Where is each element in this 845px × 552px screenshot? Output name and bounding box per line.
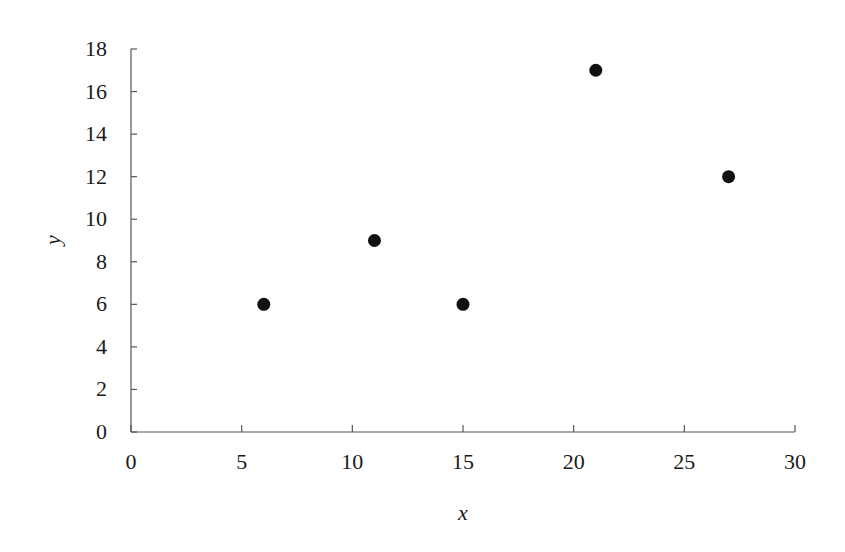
x-tick-label: 10: [341, 449, 363, 474]
data-point-marker: [457, 298, 470, 311]
y-tick-label: 6: [96, 291, 107, 316]
x-tick-label: 5: [236, 449, 247, 474]
data-point-marker: [368, 234, 381, 247]
data-point-marker: [722, 170, 735, 183]
x-axis-title: x: [457, 500, 468, 525]
y-tick-label: 10: [85, 206, 107, 231]
y-tick-label: 14: [85, 121, 107, 146]
data-point-marker: [257, 298, 270, 311]
x-tick-label: 15: [452, 449, 474, 474]
data-point-marker: [589, 64, 602, 77]
y-tick-label: 12: [85, 164, 107, 189]
y-tick-label: 18: [85, 36, 107, 61]
scatter-chart: 024681012141618051015202530 x y: [0, 0, 845, 552]
x-tick-label: 25: [673, 449, 695, 474]
x-tick-label: 0: [126, 449, 137, 474]
y-tick-label: 0: [96, 419, 107, 444]
x-tick-label: 20: [563, 449, 585, 474]
axes: 024681012141618051015202530: [85, 36, 806, 474]
x-tick-label: 30: [784, 449, 806, 474]
y-tick-label: 2: [96, 376, 107, 401]
y-tick-label: 8: [96, 249, 107, 274]
y-axis-title: y: [40, 235, 65, 247]
data-points: [257, 64, 735, 311]
y-tick-label: 16: [85, 79, 107, 104]
y-tick-label: 4: [96, 334, 107, 359]
